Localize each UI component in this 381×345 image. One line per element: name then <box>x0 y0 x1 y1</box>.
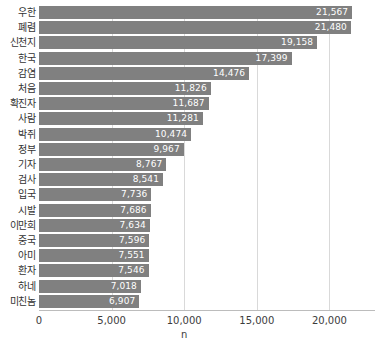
bar-row[interactable]: 11,281 <box>39 112 373 125</box>
bar-value-label: 21,480 <box>39 21 351 34</box>
x-tick-label: 15,000 <box>239 315 274 326</box>
bar-value-label: 7,634 <box>39 219 150 232</box>
category-label: 이만희 <box>0 219 36 232</box>
bar-row[interactable]: 21,480 <box>39 21 373 34</box>
bar-value-label: 7,551 <box>39 249 149 262</box>
bar-row[interactable]: 8,541 <box>39 173 373 186</box>
category-label: 감염 <box>0 67 36 80</box>
bar-row[interactable]: 17,399 <box>39 52 373 65</box>
plot-area: 21,56721,48019,15817,39914,47611,82611,6… <box>39 6 373 310</box>
bar-row[interactable]: 7,546 <box>39 264 373 277</box>
bar-row[interactable]: 7,736 <box>39 188 373 201</box>
bar-value-label: 7,686 <box>39 204 151 217</box>
bar-row[interactable]: 9,967 <box>39 143 373 156</box>
bar-value-label: 19,158 <box>39 36 317 49</box>
x-tick-label: 5,000 <box>97 315 126 326</box>
category-label: 시발 <box>0 204 36 217</box>
category-label: 처음 <box>0 82 36 95</box>
x-axis-line <box>39 310 375 311</box>
bar-value-label: 21,567 <box>39 6 352 19</box>
category-label: 한국 <box>0 52 36 65</box>
bar-chart: 우한폐렴신천지한국감염처음확진자사람박쥐정부기자검사입국시발이만희중국아미환자하… <box>0 0 381 345</box>
bar-row[interactable]: 8,767 <box>39 158 373 171</box>
bar-row[interactable]: 10,474 <box>39 128 373 141</box>
category-label: 신천지 <box>0 36 36 49</box>
category-label: 기자 <box>0 158 36 171</box>
category-label: 미친놈 <box>0 295 36 308</box>
x-tick-label: 10,000 <box>167 315 202 326</box>
bar-value-label: 11,826 <box>39 82 211 95</box>
bar-value-label: 14,476 <box>39 67 249 80</box>
x-tick-label: 20,000 <box>312 315 347 326</box>
bar-row[interactable]: 7,686 <box>39 204 373 217</box>
category-label: 중국 <box>0 234 36 247</box>
category-label: 환자 <box>0 264 36 277</box>
bar-value-label: 11,281 <box>39 112 203 125</box>
category-label: 검사 <box>0 173 36 186</box>
bar-row[interactable]: 14,476 <box>39 67 373 80</box>
category-label: 박쥐 <box>0 128 36 141</box>
bar-value-label: 10,474 <box>39 128 191 141</box>
bar-value-label: 7,736 <box>39 188 151 201</box>
category-label: 폐렴 <box>0 21 36 34</box>
bar-value-label: 8,541 <box>39 173 163 186</box>
category-label: 정부 <box>0 143 36 156</box>
bar-value-label: 17,399 <box>39 52 292 65</box>
category-label: 아미 <box>0 249 36 262</box>
bar-value-label: 7,596 <box>39 234 149 247</box>
category-axis-labels: 우한폐렴신천지한국감염처음확진자사람박쥐정부기자검사입국시발이만희중국아미환자하… <box>0 6 36 310</box>
category-label: 사람 <box>0 112 36 125</box>
bar-row[interactable]: 7,551 <box>39 249 373 262</box>
category-label: 확진자 <box>0 97 36 110</box>
bar-value-label: 7,018 <box>39 280 141 293</box>
bar-row[interactable]: 7,018 <box>39 280 373 293</box>
category-label: 하네 <box>0 280 36 293</box>
bar-value-label: 11,687 <box>39 97 209 110</box>
category-label: 입국 <box>0 188 36 201</box>
bar-row[interactable]: 6,907 <box>39 295 373 308</box>
bar-row[interactable]: 19,158 <box>39 36 373 49</box>
category-label: 우한 <box>0 6 36 19</box>
bar-row[interactable]: 11,687 <box>39 97 373 110</box>
x-tick-label: 0 <box>36 315 42 326</box>
bar-row[interactable]: 7,634 <box>39 219 373 232</box>
x-axis-title: n <box>181 329 187 340</box>
bar-value-label: 8,767 <box>39 158 166 171</box>
bar-row[interactable]: 11,826 <box>39 82 373 95</box>
bar-value-label: 7,546 <box>39 264 149 277</box>
bar-value-label: 9,967 <box>39 143 184 156</box>
bar-row[interactable]: 21,567 <box>39 6 373 19</box>
bar-row[interactable]: 7,596 <box>39 234 373 247</box>
bar-value-label: 6,907 <box>39 295 139 308</box>
